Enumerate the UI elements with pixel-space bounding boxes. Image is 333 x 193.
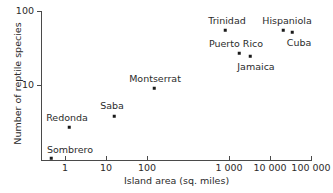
data-point-label: Montserrat xyxy=(129,73,181,84)
data-point-marker xyxy=(68,126,71,129)
y-tick-mark xyxy=(37,85,42,86)
data-point-label: Trinidad xyxy=(208,15,246,26)
x-tick-mark xyxy=(311,156,312,161)
x-tick-mark xyxy=(147,156,148,161)
data-point-marker xyxy=(50,157,53,160)
y-axis-title: Number of reptile species xyxy=(12,9,23,159)
y-axis-line xyxy=(41,11,42,161)
data-point-label: Redonda xyxy=(46,112,88,123)
data-point-label: Saba xyxy=(100,100,124,111)
x-tick-mark xyxy=(229,156,230,161)
data-point-label: Puerto Rico xyxy=(209,38,263,49)
data-point-marker xyxy=(153,87,156,90)
scatter-plot-figure: 10100 1101001 00010 000100 000 SombreroR… xyxy=(0,0,333,193)
data-point-marker xyxy=(113,115,116,118)
x-axis-line xyxy=(41,160,312,161)
x-tick-mark xyxy=(106,156,107,161)
x-axis-title: Island area (sq. miles) xyxy=(41,175,312,186)
x-tick-label: 1 xyxy=(62,162,68,173)
x-tick-label: 100 000 xyxy=(291,162,330,173)
x-tick-mark xyxy=(65,156,66,161)
x-tick-label: 10 000 xyxy=(253,162,286,173)
data-point-label: Cuba xyxy=(287,37,312,48)
data-point-marker xyxy=(282,29,285,32)
x-tick-mark xyxy=(270,156,271,161)
x-tick-label: 1 000 xyxy=(215,162,242,173)
data-point-marker xyxy=(224,29,227,32)
data-point-label: Hispaniola xyxy=(262,15,312,26)
data-point-label: Sombrero xyxy=(47,144,93,155)
data-point-marker xyxy=(249,55,252,58)
data-point-marker xyxy=(238,52,241,55)
data-point-marker xyxy=(291,31,294,34)
data-point-label: Jamaica xyxy=(237,61,274,72)
x-tick-label: 10 xyxy=(100,162,112,173)
x-tick-label: 100 xyxy=(138,162,156,173)
y-tick-mark xyxy=(37,11,42,12)
